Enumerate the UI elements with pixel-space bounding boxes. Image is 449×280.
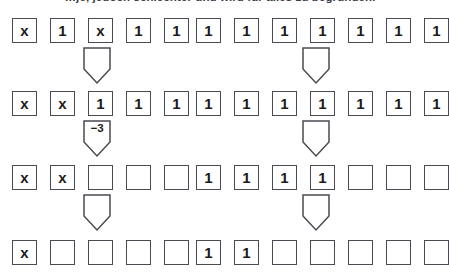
cell-empty[interactable] bbox=[310, 240, 335, 265]
cell-filled[interactable]: x bbox=[50, 165, 75, 190]
cell-empty[interactable] bbox=[386, 165, 411, 190]
cell-filled[interactable]: 1 bbox=[386, 91, 411, 116]
flow-arrow-left bbox=[82, 194, 112, 232]
cell-empty[interactable] bbox=[88, 165, 113, 190]
cell-filled[interactable]: 1 bbox=[88, 91, 113, 116]
cell-filled[interactable]: 1 bbox=[196, 240, 221, 265]
cell-empty[interactable] bbox=[164, 165, 189, 190]
cell-empty[interactable] bbox=[164, 240, 189, 265]
cell-filled[interactable]: x bbox=[12, 91, 37, 116]
cell-filled[interactable]: 1 bbox=[164, 18, 189, 43]
cell-empty[interactable] bbox=[386, 240, 411, 265]
cell-filled[interactable]: 1 bbox=[126, 18, 151, 43]
cell-filled[interactable]: 1 bbox=[348, 91, 373, 116]
arrow-label: −3 bbox=[82, 122, 112, 134]
cell-filled[interactable]: 1 bbox=[234, 18, 259, 43]
cell-empty[interactable] bbox=[50, 240, 75, 265]
cell-filled[interactable]: 1 bbox=[386, 18, 411, 43]
cell-filled[interactable]: x bbox=[12, 18, 37, 43]
cell-empty[interactable] bbox=[88, 240, 113, 265]
cell-filled[interactable]: 1 bbox=[164, 91, 189, 116]
flow-arrow-right bbox=[301, 47, 331, 85]
cell-empty[interactable] bbox=[348, 165, 373, 190]
cell-filled[interactable]: x bbox=[12, 165, 37, 190]
cell-filled[interactable]: 1 bbox=[272, 91, 297, 116]
flow-arrow-left bbox=[82, 47, 112, 85]
box-row: x11 bbox=[0, 240, 440, 268]
box-row: x1x111111111 bbox=[0, 18, 440, 46]
cell-filled[interactable]: 1 bbox=[424, 18, 449, 43]
flow-arrow-left: −3 bbox=[82, 120, 112, 158]
flow-arrow-right bbox=[301, 120, 331, 158]
cell-filled[interactable]: 1 bbox=[50, 18, 75, 43]
cell-filled[interactable]: 1 bbox=[348, 18, 373, 43]
cell-filled[interactable]: 1 bbox=[196, 91, 221, 116]
cell-empty[interactable] bbox=[126, 165, 151, 190]
cell-filled[interactable]: 1 bbox=[310, 165, 335, 190]
box-row: xx1111111111 bbox=[0, 91, 440, 119]
cell-empty[interactable] bbox=[424, 165, 449, 190]
cell-filled[interactable]: x bbox=[88, 18, 113, 43]
cell-filled[interactable]: 1 bbox=[310, 91, 335, 116]
cell-empty[interactable] bbox=[424, 240, 449, 265]
cell-filled[interactable]: 1 bbox=[234, 91, 259, 116]
cell-filled[interactable]: 1 bbox=[234, 165, 259, 190]
cell-empty[interactable] bbox=[272, 240, 297, 265]
flow-arrow-right bbox=[301, 194, 331, 232]
cell-filled[interactable]: 1 bbox=[234, 240, 259, 265]
cell-filled[interactable]: 1 bbox=[310, 18, 335, 43]
cell-filled[interactable]: 1 bbox=[126, 91, 151, 116]
cell-filled[interactable]: 1 bbox=[272, 18, 297, 43]
box-row: xx1111 bbox=[0, 165, 440, 193]
cell-filled[interactable]: x bbox=[50, 91, 75, 116]
caption-text: …je, jedoch schlechter und wird für alle… bbox=[0, 0, 440, 3]
cell-filled[interactable]: 1 bbox=[424, 91, 449, 116]
cell-empty[interactable] bbox=[126, 240, 151, 265]
cell-filled[interactable]: 1 bbox=[196, 165, 221, 190]
cell-filled[interactable]: 1 bbox=[196, 18, 221, 43]
cell-filled[interactable]: 1 bbox=[272, 165, 297, 190]
cell-filled[interactable]: x bbox=[12, 240, 37, 265]
cell-empty[interactable] bbox=[348, 240, 373, 265]
